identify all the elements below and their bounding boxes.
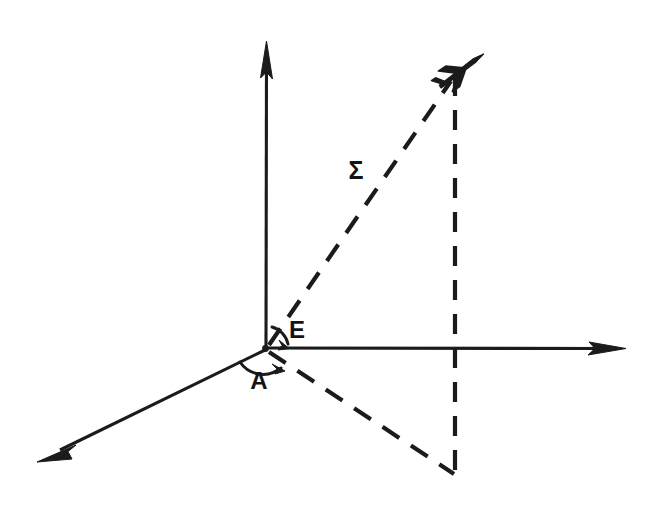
range-label: Σ (348, 156, 363, 184)
vertical-axis-line (266, 56, 267, 349)
horizontal-axis-line (265, 348, 606, 349)
depth-axis-arrowhead (37, 445, 76, 462)
depth-axis-line (60, 350, 265, 450)
vertical-axis (261, 41, 273, 349)
aircraft-symbol (429, 45, 491, 98)
coordinate-diagram: Σ E A (0, 0, 661, 509)
ground-track-line (269, 352, 454, 474)
depth-axis (37, 350, 265, 462)
origin-point (262, 345, 269, 352)
azimuth-label: A (250, 367, 267, 394)
range-line (269, 81, 451, 345)
horizontal-axis (265, 342, 626, 355)
elevation-label: E (289, 316, 305, 343)
diagram-canvas: Σ E A (0, 0, 661, 509)
